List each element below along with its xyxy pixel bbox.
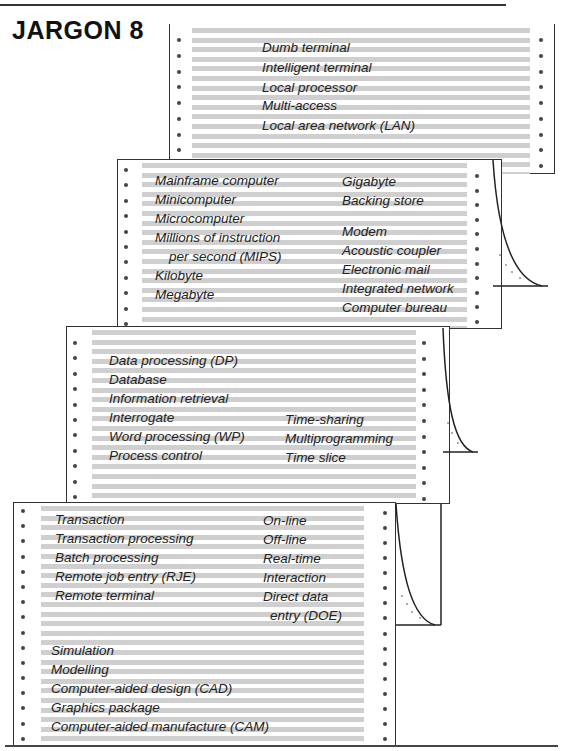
sprocket-holes-left	[176, 38, 182, 168]
top-rule	[0, 4, 506, 6]
term: Minicomputer	[155, 192, 236, 208]
paper-sheet-4: Transaction Transaction processing Batch…	[13, 502, 396, 747]
term: Data processing (DP)	[109, 353, 238, 369]
term: Direct data	[263, 589, 328, 605]
term: Off-line	[263, 532, 307, 548]
paper-sheet-2: Mainframe computer Minicomputer Microcom…	[117, 159, 502, 329]
term: Megabyte	[155, 287, 214, 303]
term: Time slice	[285, 450, 346, 466]
term: Kilobyte	[155, 268, 203, 284]
term: Gigabyte	[342, 174, 396, 190]
term: Information retrieval	[109, 391, 228, 407]
page-curl-sheet-3	[440, 328, 480, 458]
sprocket-holes-right	[538, 38, 544, 168]
term: Millions of instruction	[155, 230, 280, 246]
term: Computer-aided manufacture (CAM)	[51, 719, 269, 735]
term: per second (MIPS)	[169, 249, 282, 265]
page-title: JARGON 8	[12, 16, 144, 45]
term: Local processor	[262, 80, 357, 96]
term: Interrogate	[109, 410, 174, 426]
term: Local area network (LAN)	[262, 118, 415, 134]
term: Interaction	[263, 570, 326, 586]
sprocket-holes-left	[123, 168, 129, 326]
sprocket-holes-left	[20, 509, 26, 741]
term: Electronic mail	[342, 262, 430, 278]
term: Multiprogramming	[285, 431, 393, 447]
term: Word processing (WP)	[109, 429, 245, 445]
term: Modelling	[51, 662, 109, 678]
term: Database	[109, 372, 167, 388]
sprocket-holes-left	[72, 341, 78, 499]
term: Acoustic coupler	[342, 243, 441, 259]
term: Modem	[342, 224, 387, 240]
sprocket-holes-right	[474, 174, 480, 324]
term: Remote job entry (RJE)	[55, 569, 196, 585]
term: Remote terminal	[55, 588, 154, 604]
sheet-stripes	[192, 28, 530, 174]
page-curl-sheet-2	[490, 160, 550, 290]
paper-sheet-3: Data processing (DP) Database Informatio…	[66, 326, 450, 504]
term: Intelligent terminal	[262, 60, 372, 76]
term: Backing store	[342, 193, 424, 209]
term: Transaction	[55, 512, 125, 528]
term: Simulation	[51, 643, 114, 659]
term: entry (DOE)	[270, 608, 342, 624]
term: Multi-access	[262, 98, 337, 114]
sprocket-holes-right	[421, 341, 427, 501]
term: Mainframe computer	[155, 173, 279, 189]
term: Transaction processing	[55, 531, 194, 547]
bottom-rule	[5, 745, 558, 747]
term: Computer-aided design (CAD)	[51, 681, 232, 697]
paper-sheet-1: Dumb terminal Intelligent terminal Local…	[169, 24, 555, 174]
term: Batch processing	[55, 550, 159, 566]
term: Time-sharing	[285, 412, 364, 428]
sprocket-holes-right	[382, 511, 388, 741]
term: Dumb terminal	[262, 40, 350, 56]
term: Computer bureau	[342, 300, 447, 316]
term: Integrated network	[342, 281, 454, 297]
term: Microcomputer	[155, 211, 244, 227]
term: Graphics package	[51, 700, 160, 716]
term: Process control	[109, 448, 202, 464]
page-curl-sheet-4	[393, 504, 443, 629]
term: On-line	[263, 513, 307, 529]
term: Real-time	[263, 551, 321, 567]
